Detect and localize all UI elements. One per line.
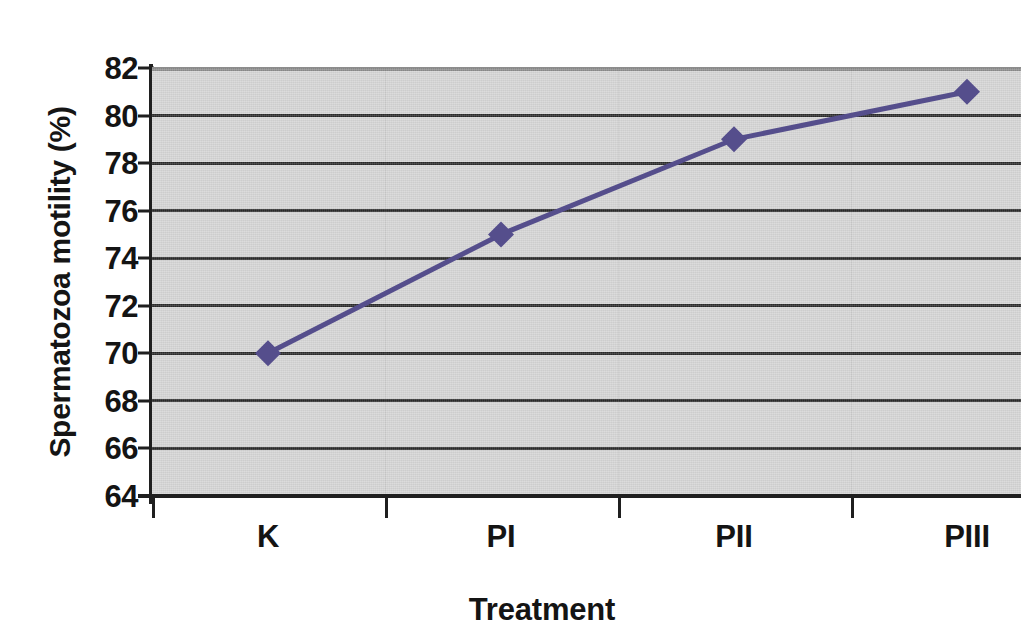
x-axis-line [138, 494, 1021, 498]
x-axis-category-label: PIII [867, 521, 1021, 552]
y-axis-tick-label: 68 [60, 385, 138, 416]
y-axis-tick-label: 72 [60, 290, 138, 321]
x-axis-tick-mark [851, 496, 854, 518]
series-line [268, 92, 967, 354]
y-axis-tick-label: 74 [60, 243, 138, 274]
y-axis-tick-label: 70 [60, 338, 138, 369]
series-markers [255, 79, 980, 367]
data-point-marker [255, 340, 281, 366]
x-axis-tick-mark [618, 496, 621, 518]
plot-area [152, 68, 1021, 496]
y-axis-tick-label: 78 [60, 148, 138, 179]
y-axis-tick-labels: 82807876747270686664 [60, 0, 138, 634]
y-axis-tick-label: 80 [60, 100, 138, 131]
x-axis-category-label: PII [634, 521, 834, 552]
data-point-marker [721, 126, 747, 152]
x-axis-tick-mark [152, 496, 155, 518]
x-axis-category-label: K [168, 521, 368, 552]
x-axis-category-label: PI [401, 521, 601, 552]
y-axis-tick-label: 66 [60, 433, 138, 464]
x-axis-tick-mark [385, 496, 388, 518]
data-point-marker [488, 221, 514, 247]
y-axis-tick-label: 82 [60, 53, 138, 84]
data-point-marker [954, 79, 980, 105]
y-axis-tick-label: 64 [60, 481, 138, 512]
data-series-layer [152, 68, 1021, 496]
x-axis-title: Treatment [0, 592, 1021, 628]
y-axis-tick-label: 76 [60, 195, 138, 226]
chart-figure: Spermatozoa motility (%) 828078767472706… [0, 0, 1021, 634]
